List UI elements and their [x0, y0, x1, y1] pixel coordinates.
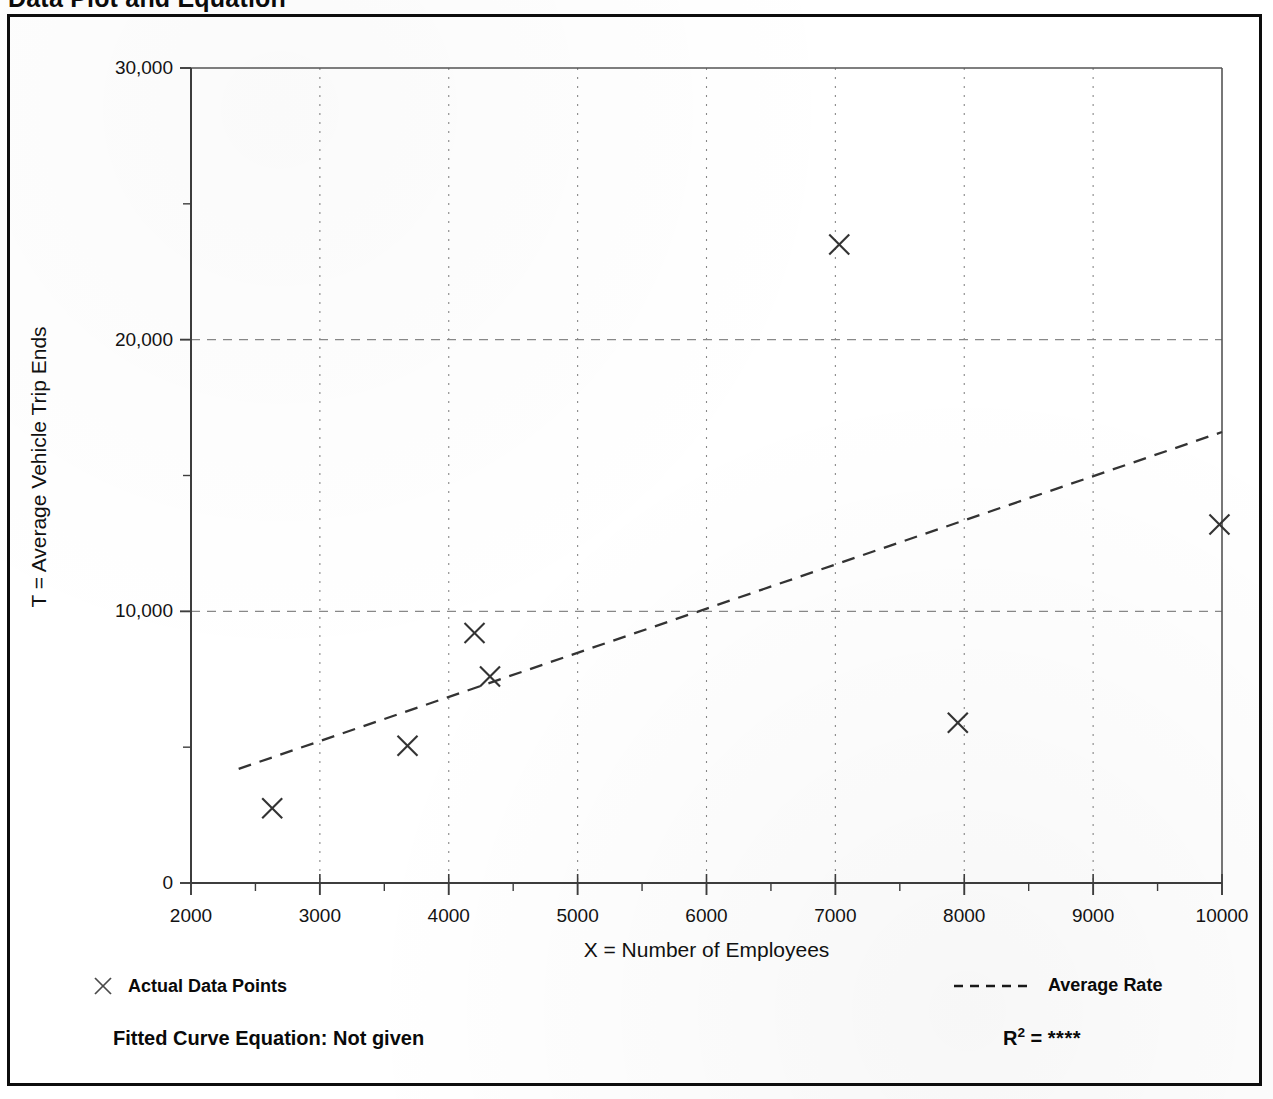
- r-squared-exponent: 2: [1017, 1025, 1025, 1040]
- chart-legend: Actual Data Points Average Rate: [0, 975, 1273, 1009]
- vertical-gridlines: [320, 68, 1093, 883]
- fitted-curve-equation: Fitted Curve Equation: Not given: [113, 1027, 424, 1050]
- x-tick-label: 8000: [943, 905, 985, 927]
- x-axis-ticks: [191, 874, 1222, 895]
- x-tick-label: 5000: [556, 905, 598, 927]
- y-axis-title: T = Average Vehicle Trip Ends: [27, 302, 51, 632]
- x-tick-label: 7000: [814, 905, 856, 927]
- chart-footer: Fitted Curve Equation: Not given R2 = **…: [0, 1027, 1273, 1065]
- data-point-marker: [948, 713, 968, 733]
- dashed-line-icon: [952, 980, 1034, 992]
- chart-area: 010,00020,00030,000 20003000400050006000…: [0, 0, 1273, 1099]
- legend-label-average-rate: Average Rate: [1048, 975, 1162, 996]
- data-point-marker: [262, 798, 282, 818]
- r-squared-value: R2 = ****: [1003, 1027, 1081, 1050]
- y-tick-label: 20,000: [60, 329, 173, 351]
- y-axis-ticks: [180, 68, 191, 883]
- x-tick-label: 6000: [685, 905, 727, 927]
- plot-border: [191, 68, 1222, 883]
- legend-label-actual-data-points: Actual Data Points: [128, 976, 287, 997]
- x-tick-label: 10000: [1196, 905, 1249, 927]
- average-rate-trendline: [239, 432, 1222, 769]
- x-tick-label: 3000: [299, 905, 341, 927]
- r-squared-stars: ****: [1048, 1027, 1081, 1049]
- y-tick-label: 0: [60, 872, 173, 894]
- r-squared-equals: =: [1025, 1027, 1048, 1049]
- horizontal-gridlines: [191, 340, 1222, 612]
- legend-item-actual-data-points: Actual Data Points: [92, 975, 287, 997]
- data-point-marker: [398, 736, 418, 756]
- x-tick-label: 4000: [428, 905, 470, 927]
- x-tick-label: 2000: [170, 905, 212, 927]
- scatter-plot-svg: [0, 0, 1273, 1099]
- x-marker-icon: [92, 975, 114, 997]
- x-axis-title: X = Number of Employees: [191, 938, 1222, 962]
- data-point-markers: [262, 235, 1229, 819]
- data-point-marker: [465, 623, 485, 643]
- y-tick-label: 10,000: [60, 600, 173, 622]
- y-tick-label: 30,000: [60, 57, 173, 79]
- data-point-marker: [829, 235, 849, 255]
- figure-page: Data Plot and Equation: [0, 0, 1273, 1099]
- legend-item-average-rate: Average Rate: [952, 975, 1162, 996]
- x-tick-label: 9000: [1072, 905, 1114, 927]
- r-squared-symbol: R: [1003, 1027, 1017, 1049]
- data-point-marker: [1209, 514, 1229, 534]
